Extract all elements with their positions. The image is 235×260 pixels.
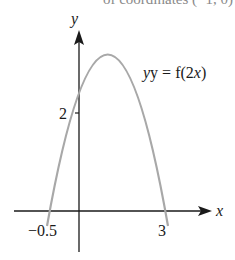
x-tick-label-right: 3 (158, 222, 166, 239)
curve-label-var: x (193, 64, 201, 81)
y-axis-label: y (69, 10, 79, 28)
curve-label-eq: y = (150, 64, 175, 82)
graph: y x 2 −0.5 3 yy = f(2x) (0, 0, 235, 260)
curve-label: yy = f(2x) (141, 64, 206, 82)
x-axis-label: x (215, 202, 223, 219)
y-tick-label-2: 2 (59, 105, 67, 122)
curve-label-func: f(2 (175, 64, 194, 82)
x-tick-label-left: −0.5 (28, 222, 57, 239)
curve-label-close: ) (201, 64, 206, 82)
